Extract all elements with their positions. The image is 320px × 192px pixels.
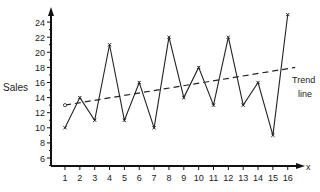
y-tick-label: 10	[35, 123, 45, 133]
sales-line-path	[65, 15, 288, 136]
x-tick-label: 9	[181, 173, 186, 183]
x-tick-label: 15	[268, 173, 278, 183]
x-tick-label: 2	[77, 173, 82, 183]
x-tick-label: 13	[238, 173, 248, 183]
x-tick-label: 16	[283, 173, 293, 183]
x-tick-label: 12	[223, 173, 233, 183]
y-tick-label: 16	[35, 78, 45, 88]
x-tick-label: 10	[194, 173, 204, 183]
x-axis-label: x	[306, 162, 311, 172]
x-tick-label: 11	[209, 173, 218, 183]
y-tick-label: 14	[35, 93, 45, 103]
x-tick-label: 8	[166, 173, 171, 183]
x-axis-ticks: 12345678910111213141516	[62, 166, 292, 183]
sales-series	[63, 13, 289, 137]
x-tick-label: 14	[253, 173, 263, 183]
y-axis-ticks: 681012141618202224	[35, 15, 51, 166]
x-tick-label: 3	[92, 173, 97, 183]
sales-line-chart: 681012141618202224 123456789101112131415…	[0, 0, 320, 192]
trend-start-marker-icon	[63, 104, 66, 107]
x-axis-arrow-icon	[296, 163, 305, 169]
y-tick-label: 6	[40, 154, 45, 164]
y-tick-label: 22	[35, 33, 45, 43]
x-tick-label: 6	[137, 173, 142, 183]
x-tick-label: 7	[152, 173, 157, 183]
y-axis-label: Sales	[3, 82, 28, 93]
trend-line-path	[65, 67, 295, 105]
y-tick-label: 24	[35, 18, 45, 28]
x-tick-label: 4	[107, 173, 112, 183]
trend-line-annotation-line1: Trend	[292, 75, 315, 85]
axes	[48, 7, 305, 169]
x-tick-label: 1	[62, 173, 67, 183]
trend-line-annotation-line2: line	[298, 89, 312, 99]
y-tick-label: 12	[35, 108, 45, 118]
y-tick-label: 20	[35, 48, 45, 58]
x-tick-label: 5	[122, 173, 127, 183]
y-tick-label: 18	[35, 63, 45, 73]
y-tick-label: 8	[40, 138, 45, 148]
